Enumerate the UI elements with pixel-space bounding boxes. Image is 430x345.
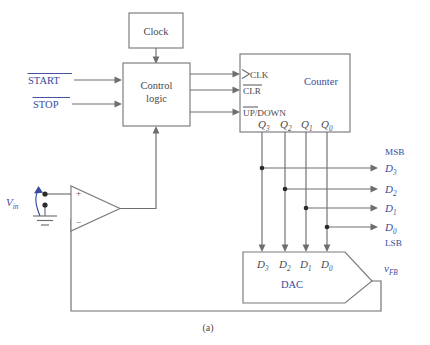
start-label: START — [28, 75, 60, 86]
control-logic-label-line2: logic — [146, 93, 167, 104]
wire-comparator-to-control — [120, 133, 156, 209]
clock-label: Clock — [143, 26, 169, 37]
comparator-minus-label: − — [76, 217, 81, 227]
figure-root: Clock Control logic START STOP Counter C… — [0, 0, 430, 345]
output-d2-label: D2 — [384, 183, 397, 198]
arrowhead-d3 — [371, 165, 379, 172]
counter-input-updown-label: UP/DOWN — [243, 108, 286, 118]
junction-dot-d2 — [283, 187, 288, 192]
stop-label: STOP — [33, 99, 59, 110]
lsb-label: LSB — [385, 238, 402, 248]
arrowhead-d0 — [371, 224, 379, 231]
counter-input-clr-label: CLR — [243, 86, 262, 96]
figure-caption: (a) — [202, 322, 213, 334]
output-d0-label: D0 — [384, 221, 397, 236]
vin-node-dot — [42, 191, 47, 196]
circuit-schematic: Clock Control logic START STOP Counter C… — [0, 0, 430, 345]
control-logic-label-line1: Control — [140, 80, 172, 91]
arrowhead-clk — [233, 71, 241, 78]
counter-label: Counter — [304, 76, 338, 87]
vin-curved-arrow-icon — [36, 191, 40, 216]
vin-arrowhead-icon — [34, 186, 43, 194]
junction-dot-d0 — [325, 225, 330, 230]
junction-dot-d1 — [304, 206, 309, 211]
arrowhead-q2-dac — [282, 245, 289, 253]
updown-rest-part: /DOWN — [255, 108, 286, 118]
arrowhead-updown — [233, 109, 241, 116]
dac-label: DAC — [281, 279, 303, 290]
counter-input-clk-label: CLK — [250, 70, 269, 80]
arrowhead-clr — [233, 87, 241, 94]
arrowhead-comparator-to-control — [153, 126, 160, 134]
arrowhead-d1 — [371, 205, 379, 212]
output-d1-label: D1 — [384, 202, 397, 217]
comparator-plus-label: + — [76, 188, 81, 198]
ground-node-dot — [42, 202, 47, 207]
junction-dot-d3 — [260, 166, 265, 171]
output-d3-label: D3 — [384, 162, 397, 177]
updown-up-part: UP — [243, 108, 255, 118]
arrowhead-q1-dac — [303, 245, 310, 253]
arrowhead-d2 — [371, 186, 379, 193]
arrowhead-q0-dac — [324, 245, 331, 253]
arrowhead-stop — [115, 101, 123, 108]
arrowhead-q3-dac — [259, 245, 266, 253]
msb-label: MSB — [385, 147, 404, 157]
vfb-label: vFB — [384, 262, 398, 277]
vin-label: Vin — [6, 196, 19, 211]
arrowhead-start — [115, 77, 123, 84]
